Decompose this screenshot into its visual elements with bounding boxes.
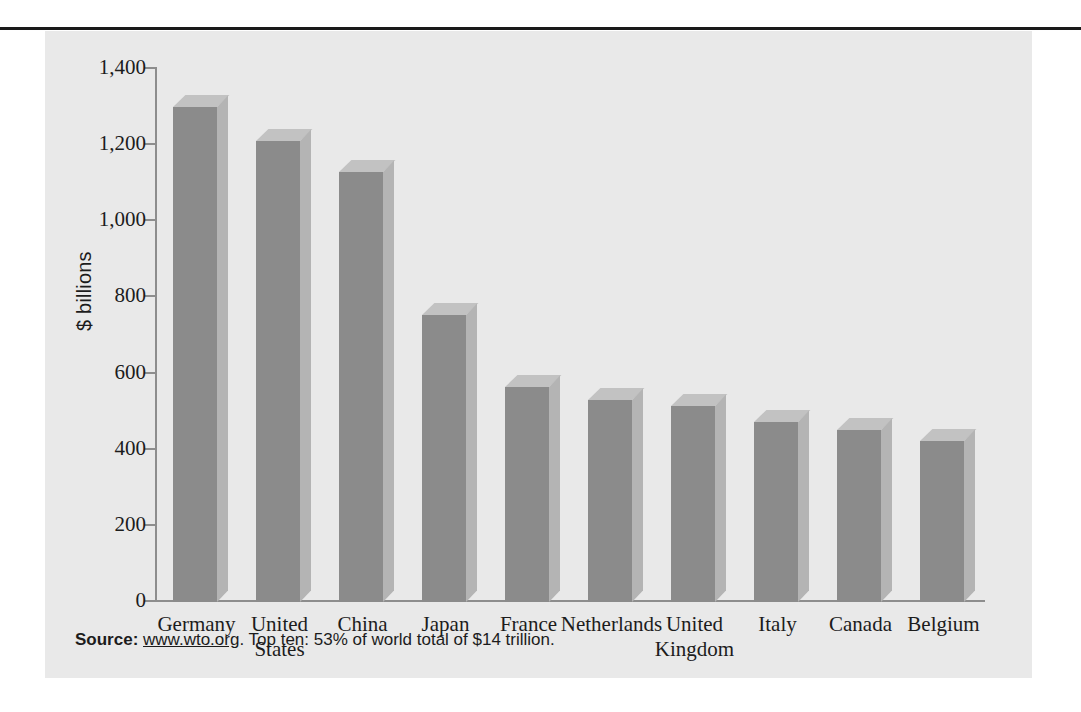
source-note-text: . Top ten: 53% of world total of $14 tri…: [239, 630, 554, 649]
bar-side-face: [632, 389, 643, 602]
bar-side-face: [217, 96, 228, 602]
bar-front-face: [256, 141, 300, 602]
bar-front-face: [920, 441, 964, 602]
bar-front-face: [339, 172, 383, 602]
bar: [920, 441, 964, 602]
y-tick-label: 1,200: [99, 131, 146, 156]
x-axis-category-label-line: Belgium: [892, 612, 995, 637]
bar-side-face: [881, 419, 892, 602]
y-axis-line: [155, 67, 157, 602]
bar: [173, 107, 217, 602]
chart-figure-panel: $ billions 1,4001,2001,0008006004002000 …: [45, 31, 1032, 678]
bar-side-face: [549, 376, 560, 602]
bar-side-face: [300, 130, 311, 602]
y-tick-label: 400: [115, 435, 147, 460]
bar: [837, 430, 881, 602]
bar-front-face: [505, 387, 549, 602]
source-url-link[interactable]: www.wto.org: [143, 630, 239, 649]
y-tick-label: 1,000: [99, 207, 146, 232]
bar: [339, 172, 383, 602]
y-tick-label: 600: [115, 359, 147, 384]
bar-front-face: [173, 107, 217, 602]
x-axis-category-label-line: Kingdom: [643, 637, 746, 662]
plot-area: 1,4001,2001,0008006004002000 GermanyUnit…: [155, 67, 985, 604]
y-tick-label: 800: [115, 283, 147, 308]
bar-front-face: [837, 430, 881, 602]
y-tick-label: 200: [115, 511, 147, 536]
bar: [754, 422, 798, 602]
top-horizontal-rule: [0, 27, 1081, 30]
bar-side-face: [798, 411, 809, 602]
bar-front-face: [588, 400, 632, 602]
source-label: Source:: [75, 630, 138, 649]
bar-front-face: [422, 315, 466, 602]
source-note: Source: www.wto.org. Top ten: 53% of wor…: [75, 630, 555, 650]
bar: [256, 141, 300, 602]
y-tick-label: 0: [136, 588, 147, 613]
y-tick-label: 1,400: [99, 55, 146, 80]
bar: [671, 406, 715, 602]
bar-front-face: [754, 422, 798, 602]
bar-side-face: [383, 160, 394, 602]
bar-side-face: [466, 303, 477, 602]
bar-side-face: [715, 395, 726, 602]
bar: [505, 387, 549, 602]
bar: [588, 400, 632, 602]
bar-side-face: [964, 429, 975, 602]
y-axis-title: $ billions: [73, 251, 96, 331]
bar-front-face: [671, 406, 715, 602]
bar: [422, 315, 466, 602]
x-axis-category-label: Belgium: [892, 612, 995, 637]
